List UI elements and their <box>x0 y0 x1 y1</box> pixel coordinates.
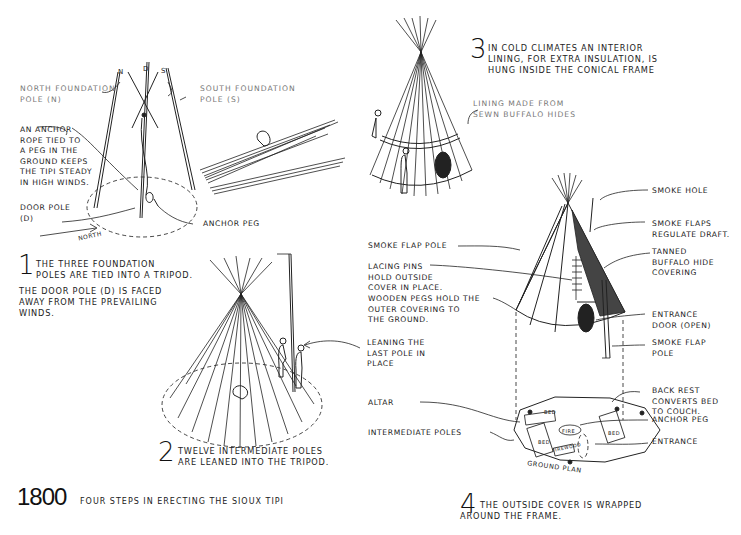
back-rest-label: Back rest converts bed to couch. <box>652 386 719 418</box>
smoke-flaps-label: Smoke flaps regulate draft. <box>652 219 730 240</box>
anchor-rope-label: An anchor rope tied to a peg in the grou… <box>20 125 92 188</box>
diagram-title: Four steps in erecting the Sioux tipi <box>80 497 284 506</box>
step-3-number: 3 <box>470 36 487 62</box>
smoke-flap-pole-left-label: Smoke flap pole <box>368 241 447 252</box>
step3-lining-drawing <box>370 16 478 196</box>
wooden-pegs-label: Wooden pegs hold the outer covering to t… <box>368 294 480 326</box>
step-1-note: The door pole (D) is faced away from the… <box>19 286 162 319</box>
step-4-text: The outside cover is wrapped around the … <box>460 500 642 522</box>
plan-bed-1: Bed <box>544 407 556 418</box>
door-pole-label: Door pole (D) <box>20 203 70 224</box>
step-2-text: Twelve intermediate poles are leaned int… <box>178 446 329 468</box>
lacing-pins-label: Lacing pins hold outside cover in place. <box>368 262 443 294</box>
step-1-text: The three foundation poles are tied into… <box>36 259 193 281</box>
tanned-hide-label: Tanned buffalo hide covering <box>652 247 714 279</box>
entrance-door-label: Entrance door (open) <box>652 310 711 331</box>
north-foundation-pole-label: North foundation pole (N) <box>20 84 116 105</box>
intermediate-poles-label: Intermediate poles <box>368 428 462 439</box>
entrance-label: Entrance <box>652 437 698 448</box>
south-foundation-pole-label: South foundation pole (S) <box>200 84 296 105</box>
plan-bed-3: Bed <box>608 428 620 439</box>
anchor-peg-label-step1: Anchor peg <box>203 219 260 230</box>
plan-fire: Fire <box>562 426 575 437</box>
pole-letter-n: N <box>118 67 124 78</box>
pole-letter-s: S <box>161 66 166 77</box>
anchor-peg-label-step4: Anchor peg <box>652 415 709 426</box>
pole-letter-d: D <box>143 64 149 75</box>
step2-frame-drawing <box>162 254 360 448</box>
step-1-number: 1 <box>18 252 35 278</box>
smoke-flap-pole-right-label: Smoke flap pole <box>652 338 706 359</box>
smoke-hole-label: Smoke hole <box>652 186 708 197</box>
pole-bundle-drawing <box>200 120 345 194</box>
step-3-text: In cold climates an interior lining, for… <box>488 43 658 76</box>
leaning-last-pole-label: Leaning the last pole in place <box>367 338 426 370</box>
plan-bed-2: Bed <box>538 437 550 448</box>
step-2-number: 2 <box>158 439 175 465</box>
lining-label: Lining made from sewn buffalo hides <box>473 99 576 120</box>
year-label: 1800 <box>17 483 66 511</box>
altar-label: Altar <box>368 398 394 409</box>
